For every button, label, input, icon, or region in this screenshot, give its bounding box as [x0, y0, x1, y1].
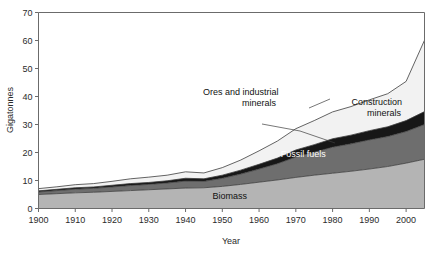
y-tick-label: 70	[22, 8, 32, 18]
y-tick-label: 40	[22, 92, 32, 102]
fossil-fuels-label: Fossil fuels	[281, 149, 327, 159]
x-axis-title: Year	[222, 236, 240, 246]
x-tick-label: 1910	[65, 215, 85, 225]
y-axis-ticks	[35, 13, 39, 209]
x-tick-label: 1970	[286, 215, 306, 225]
x-tick-label: 1960	[249, 215, 269, 225]
stacked-area-chart-figure: 010203040506070 190019101920193019401950…	[0, 0, 432, 253]
x-tick-label: 1920	[102, 215, 122, 225]
x-tick-label: 1900	[28, 215, 48, 225]
x-tick-label: 1930	[139, 215, 159, 225]
y-tick-label: 20	[22, 148, 32, 158]
x-tick-label: 1940	[176, 215, 196, 225]
construction-label-line-2: minerals	[367, 108, 402, 118]
y-tick-label: 10	[22, 176, 32, 186]
y-axis-tick-labels: 010203040506070	[22, 8, 32, 214]
x-tick-label: 1990	[359, 215, 379, 225]
y-tick-label: 50	[22, 64, 32, 74]
x-tick-label: 1980	[323, 215, 343, 225]
y-tick-label: 0	[27, 204, 32, 214]
x-axis-ticks	[39, 209, 407, 213]
construction-leader-line	[309, 99, 330, 108]
x-tick-label: 1950	[212, 215, 232, 225]
biomass-label: Biomass	[212, 191, 247, 201]
chart-canvas: 010203040506070 190019101920193019401950…	[0, 0, 432, 253]
x-tick-label: 2000	[396, 215, 416, 225]
ores-label-line-2: minerals	[242, 98, 277, 108]
y-tick-label: 30	[22, 120, 32, 130]
ores-label-line-1: Ores and industrial	[203, 87, 279, 97]
construction-label-line-1: Construction	[351, 97, 402, 107]
y-axis-title: Gigatonnes	[5, 86, 15, 133]
x-axis-tick-labels: 1900191019201930194019501960197019801990…	[28, 215, 416, 225]
y-tick-label: 60	[22, 36, 32, 46]
